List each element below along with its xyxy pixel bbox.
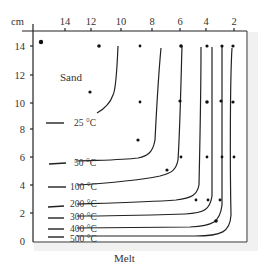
data-point	[207, 199, 210, 202]
data-point	[97, 44, 101, 48]
legend-label-500c: 500 °C	[70, 234, 97, 244]
y-tick-label: 12	[15, 70, 26, 81]
legend-key-200c	[48, 206, 64, 207]
data-point	[220, 44, 223, 47]
data-point	[136, 138, 139, 141]
x-tick-label: 10	[116, 16, 127, 27]
y-axis-tick-labels: cm 14 12 10 8 6 4 2 0	[11, 16, 26, 247]
x-tick-label: 4	[203, 16, 209, 27]
data-point	[233, 156, 236, 159]
x-tick-label: 2	[231, 16, 236, 27]
temperature-contour-chart: 14 12 10 8 6 4 2 cm 14 12 10 8 6 4 2 0 S…	[0, 0, 266, 271]
y-unit-label: cm	[11, 16, 24, 27]
measurement-points	[39, 40, 236, 223]
data-point	[139, 101, 142, 104]
plot-frame	[22, 24, 247, 242]
isotherm-curves	[76, 46, 232, 236]
data-point	[219, 99, 222, 102]
frame-shadow-bottom	[34, 243, 258, 251]
y-tick-label: 10	[15, 98, 26, 109]
y-tick-label: 0	[20, 236, 25, 247]
x-tick-label: 8	[149, 16, 154, 27]
data-point	[214, 219, 218, 223]
data-point	[88, 90, 91, 93]
legend-label-25c: 25 °C	[74, 118, 96, 128]
data-point	[39, 40, 43, 44]
data-point	[180, 156, 183, 159]
legend-label-100c: 100 °C	[70, 182, 97, 192]
data-point	[195, 199, 198, 202]
data-point	[139, 45, 142, 48]
data-point	[219, 199, 222, 202]
y-tick-label: 14	[15, 41, 26, 52]
isotherm-legend: 25 °C 50 °C 100 °C 200 °C 300 °C 400 °C …	[46, 118, 97, 244]
x-axis-tick-labels: 14 12 10 8 6 4 2	[60, 16, 237, 27]
data-point	[231, 100, 234, 103]
data-point	[221, 156, 224, 159]
y-tick-label: 8	[20, 124, 25, 135]
data-point	[205, 44, 208, 47]
legend-label-300c: 300 °C	[70, 212, 97, 222]
x-tick-label: 12	[86, 16, 97, 27]
data-point	[205, 100, 209, 104]
legend-label-50c: 50 °C	[74, 158, 96, 168]
data-point	[231, 44, 234, 47]
data-point	[206, 156, 209, 159]
legend-label-400c: 400 °C	[70, 224, 97, 234]
legend-key-50c	[49, 163, 66, 164]
x-tick-label: 14	[60, 16, 71, 27]
legend-label-200c: 200 °C	[70, 199, 97, 209]
data-point	[178, 99, 181, 102]
isotherm-25c	[97, 46, 118, 113]
x-tick-label: 6	[177, 16, 182, 27]
data-point	[165, 168, 168, 171]
y-tick-label: 6	[20, 152, 25, 163]
data-point	[179, 44, 183, 48]
y-tick-label: 4	[20, 180, 26, 191]
y-tick-label: 2	[20, 208, 25, 219]
frame-shadow-right	[248, 32, 258, 250]
sand-label: Sand	[60, 71, 83, 83]
melt-label: Melt	[114, 252, 135, 264]
isotherm-300c	[77, 47, 212, 216]
isotherm-50c	[76, 48, 161, 161]
